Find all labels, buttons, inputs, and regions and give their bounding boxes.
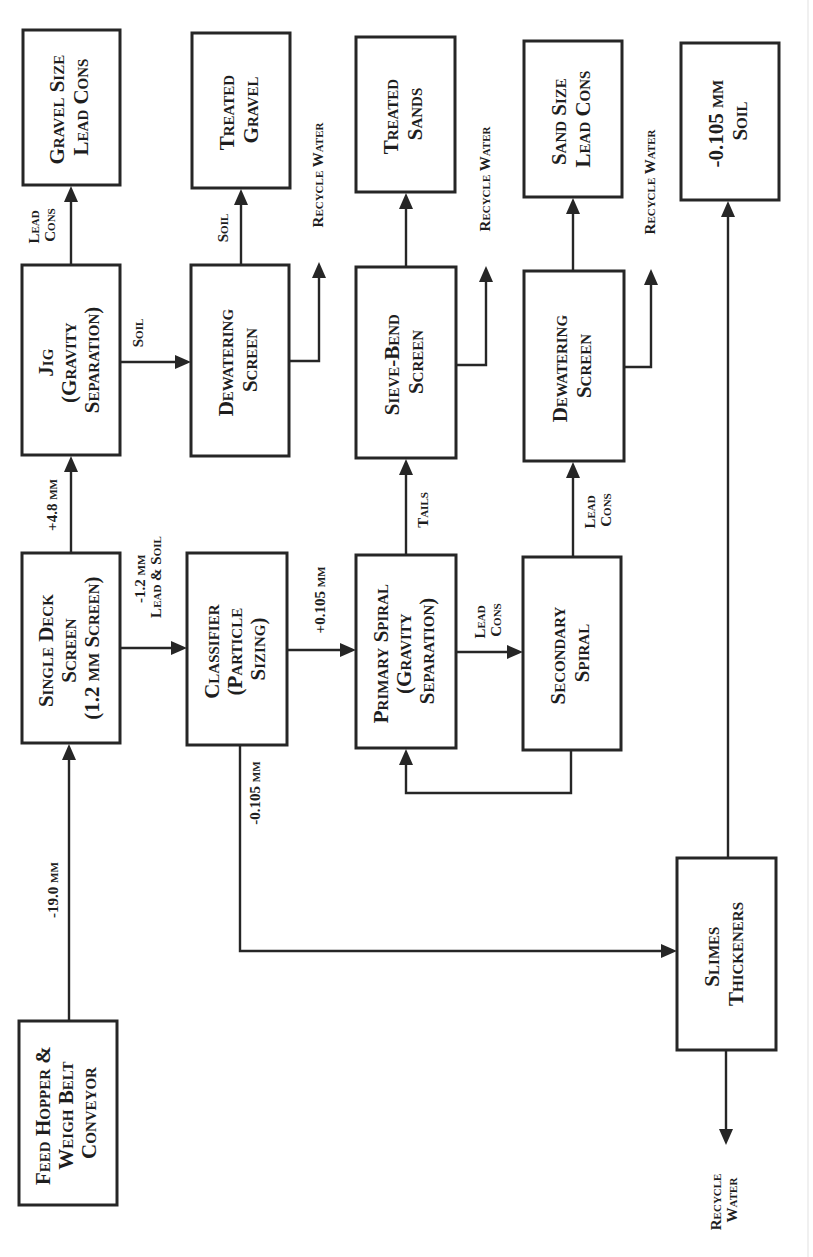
node-label-line: (1.2 mm Screen): [80, 576, 104, 719]
svg-text:Treated Gravel: Treated Gravel: [215, 70, 262, 151]
svg-text:Lead Cons: Lead Cons: [472, 602, 505, 639]
arrow-up-icon: [721, 201, 735, 217]
node-label-line: Weigh Belt: [54, 1062, 78, 1170]
arrow-up-icon: [312, 262, 326, 278]
arrow-right-icon: [340, 643, 356, 657]
flow-secondary-recycle-to-primary: [399, 749, 571, 793]
node-jig: Jig (Gravity Separation): [22, 265, 120, 455]
arrow-up-icon: [64, 186, 78, 202]
flow-primary-to-secondary: Lead Cons: [456, 602, 523, 659]
node-label-line: Separation): [415, 598, 439, 704]
node-label-line: Slimes: [700, 927, 724, 987]
svg-text:Soil: Soil: [130, 319, 146, 348]
node-label-line: Lead Cons: [570, 71, 594, 168]
flow-classifier-to-primary: +0.105 mm: [287, 566, 356, 657]
node-classifier: Classifier (Particle Sizing): [187, 553, 287, 745]
flow-sieve-recycle: Recycle Water: [456, 125, 493, 365]
flow-jig-to-dewatering: Soil: [120, 319, 191, 369]
svg-text:Recycle Water: Recycle Water: [477, 125, 493, 231]
flow-dewatering-to-sand-cons: [566, 198, 580, 271]
node-label-line: Sand Size: [547, 78, 571, 165]
node-label-line: Sieve-Bend: [380, 314, 404, 415]
node-label-line: Spiral: [569, 624, 593, 682]
arrow-down-icon: [719, 1129, 733, 1145]
node-label-line: Conveyor: [77, 1067, 101, 1159]
flow-label-line: Recycle Water: [642, 128, 658, 234]
svg-text:-0.105 mm: -0.105 mm: [247, 761, 263, 825]
flow-label-line: +0.105 mm: [312, 566, 328, 633]
node-treated-sands: Treated Sands: [356, 37, 455, 192]
node-label-line: Screen: [571, 334, 595, 398]
flow-dewatering-1-recycle: Recycle Water: [289, 121, 326, 361]
flow-label-line: Lead: [472, 605, 488, 638]
node-label-line: (Particle: [223, 608, 247, 696]
node-label-line: Screen: [57, 618, 81, 682]
flow-label-line: Cons: [43, 208, 59, 241]
flow-label-line: Lead: [26, 210, 42, 243]
flow-label-line: -0.105 mm: [247, 761, 263, 825]
node-label-line: Dewatering: [548, 315, 572, 423]
svg-text:+0.105 mm: +0.105 mm: [312, 566, 328, 633]
flow-screen-to-classifier: -1.2 mm Lead & Soil: [120, 536, 187, 655]
flow-label-line: Tails: [415, 492, 431, 528]
flow-primary-to-sieve: Tails: [399, 459, 431, 555]
flow-dewatering-to-treated-gravel: Soil: [215, 189, 248, 265]
arrow-up-icon: [399, 459, 413, 475]
svg-text:Recycle Water: Recycle Water: [310, 121, 326, 227]
node-label-line: Thickeners: [723, 902, 747, 1006]
flow-classifier-to-slimes: -0.105 mm: [240, 745, 677, 958]
flow-slimes-to-fine-soil: [721, 201, 735, 858]
node-label-line: (Gravity: [57, 322, 81, 403]
arrow-up-icon: [234, 189, 248, 205]
node-label-line: Treated: [215, 75, 239, 151]
node-treated-gravel: Treated Gravel: [192, 33, 290, 188]
flow-label-line: Lead: [582, 495, 598, 528]
node-label-line: -0.105 mm: [704, 80, 728, 168]
flow-dewatering-2-recycle: Recycle Water: [624, 128, 658, 367]
svg-text:Recycle Water: Recycle Water: [708, 1170, 741, 1230]
flow-label-line: Cons: [599, 493, 615, 526]
flow-jig-to-gravel-cons: Lead Cons: [26, 186, 78, 265]
arrow-up-icon: [644, 269, 658, 285]
flow-label-line: Recycle Water: [310, 121, 326, 227]
arrow-up-icon: [64, 456, 78, 472]
flow-label-line: Recycle: [708, 1174, 724, 1231]
node-dewatering-screen-2: Dewatering Screen: [524, 271, 624, 461]
arrow-up-icon: [479, 266, 493, 282]
flow-feed-to-screen: -19.0 mm: [45, 744, 76, 1021]
svg-text:+4.8 mm: +4.8 mm: [44, 478, 60, 530]
node-slimes-thickeners: Slimes Thickeners: [677, 858, 776, 1050]
flow-label-line: -19.0 mm: [45, 862, 61, 918]
svg-text:Tails: Tails: [415, 492, 431, 528]
node-label-line: Gravel Size: [45, 55, 69, 165]
node-label-line: Separation): [80, 307, 104, 413]
svg-text:-19.0 mm: -19.0 mm: [45, 862, 61, 918]
arrow-up-icon: [566, 462, 580, 478]
svg-text:Recycle Water: Recycle Water: [642, 128, 658, 234]
svg-text:Lead Cons: Lead Cons: [26, 207, 59, 244]
arrow-right-icon: [171, 641, 187, 655]
node-label-line: Screen: [403, 330, 427, 394]
arrow-up-icon: [62, 744, 76, 760]
node-label-line: Primary Spiral: [369, 584, 393, 723]
flow-sieve-to-treated-sands: [399, 193, 413, 267]
node-label-line: Jig: [34, 348, 58, 376]
node-label-line: Feed Hopper &: [31, 1046, 55, 1185]
node-label-line: Dewatering: [214, 309, 238, 417]
node-primary-spiral: Primary Spiral (Gravity Separation): [356, 555, 456, 748]
node-label-line: Treated: [379, 79, 403, 155]
node-sieve-bend-screen: Sieve-Bend Screen: [356, 267, 456, 458]
arrow-up-icon: [399, 749, 413, 765]
node-label-line: Lead Cons: [68, 59, 92, 156]
node-single-deck-screen: Single Deck Screen (1.2 mm Screen): [22, 553, 120, 743]
node-fine-soil: -0.105 mm Soil: [681, 43, 779, 200]
svg-text:Sand Size Lead Cons: Sand Size Lead Cons: [547, 71, 594, 168]
node-label-line: Sands: [402, 88, 426, 141]
svg-text:Lead Cons: Lead Cons: [582, 492, 615, 529]
node-label-line: Classifier: [200, 604, 224, 699]
svg-text:Gravel Size Lead Cons: Gravel Size Lead Cons: [45, 50, 92, 165]
flow-label-line: +4.8 mm: [44, 478, 60, 530]
flow-label-line: Soil: [130, 319, 146, 348]
flow-screen-to-jig: +4.8 mm: [44, 456, 78, 553]
arrow-right-icon: [507, 645, 523, 659]
